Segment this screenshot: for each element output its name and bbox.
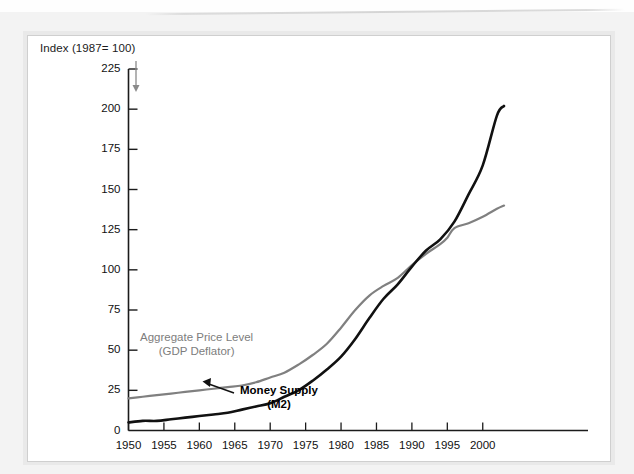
series-line-aggregate-price-level [129, 206, 505, 399]
x-axis-tick-label: 2000 [461, 439, 505, 451]
y-axis-tick-label: 100 [81, 263, 121, 275]
y-axis-tick-label: 150 [81, 183, 121, 195]
money-supply-annotation-line2: (M2) [240, 398, 318, 412]
y-axis-tick-label: 75 [81, 303, 121, 315]
y-axis-tick-label: 200 [81, 102, 121, 114]
chart-svg [28, 36, 612, 463]
y-axis-ticks [129, 69, 138, 431]
y-axis-tick-label: 225 [81, 62, 121, 74]
y-axis-tick-label: 0 [81, 424, 121, 436]
aggregate-price-level-annotation: Aggregate Price Level (GDP Deflator) [140, 331, 253, 358]
money-supply-annotation: Money Supply (M2) [240, 384, 318, 411]
chart-axes [129, 69, 589, 431]
y-axis-tick-label: 50 [81, 343, 121, 355]
money-supply-arrowhead [203, 378, 212, 387]
aggregate-price-level-annotation-line1: Aggregate Price Level [140, 331, 253, 345]
y-axis-tick-label: 125 [81, 223, 121, 235]
money-supply-annotation-line1: Money Supply [240, 384, 318, 398]
aggregate-price-level-annotation-line2: (GDP Deflator) [140, 345, 253, 359]
series-line-money-supply [129, 106, 505, 423]
y-axis-tick-label: 25 [81, 383, 121, 395]
x-axis-ticks [129, 423, 483, 431]
aggregate-price-arrowhead [133, 85, 140, 92]
chart-series-group [129, 106, 505, 423]
page-background: Index (1987= 100) 0255075100125150175200… [0, 0, 634, 474]
y-axis-tick-label: 175 [81, 142, 121, 154]
chart-panel: Index (1987= 100) 0255075100125150175200… [27, 35, 611, 462]
chart-plot-area [28, 36, 612, 463]
